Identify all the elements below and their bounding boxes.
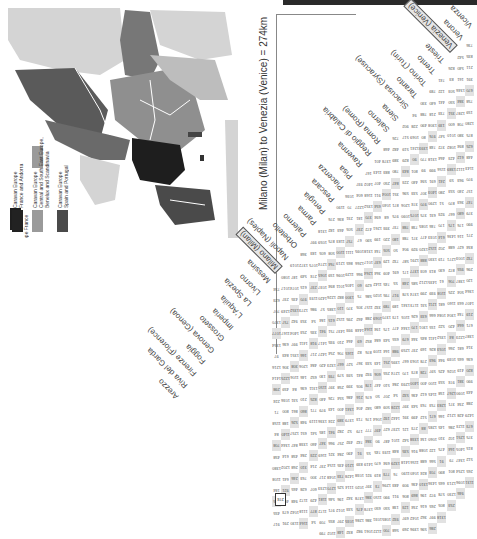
distance-cell: 770: [419, 154, 428, 165]
distance-cell: 860: [299, 406, 308, 417]
distance-cell: 332: [373, 302, 382, 313]
distance-cell: 1310: [419, 479, 428, 490]
distance-cell: 295: [345, 314, 354, 325]
distance-cell: 139: [437, 120, 446, 131]
distance-cell: 1428: [345, 471, 354, 482]
distance-cell: 605: [318, 248, 327, 259]
distance-cell: 1033: [428, 232, 437, 243]
distance-cell: 192: [382, 413, 391, 424]
distance-cell: 183: [309, 248, 318, 259]
distance-cell: 1230: [447, 489, 456, 500]
distance-cell: 1064: [373, 414, 382, 425]
distance-cell: 745: [373, 447, 382, 458]
distance-cell: 706: [447, 276, 456, 287]
distance-cell: 542: [456, 52, 465, 63]
distance-cell: 182: [327, 225, 336, 236]
distance-cell: 728: [419, 367, 428, 378]
distance-cell: 79: [447, 455, 456, 466]
distance-cell: 911: [391, 491, 400, 502]
distance-cell: 1212: [447, 410, 456, 421]
distance-cell: 719: [437, 254, 446, 265]
distance-cell: 381: [456, 376, 465, 387]
distance-cell: 706: [336, 348, 345, 359]
distance-cell: 344: [410, 334, 419, 345]
distance-cell: 207: [382, 391, 391, 402]
distance-cell: 1164: [299, 518, 308, 529]
distance-cell: 894: [327, 281, 336, 292]
distance-cell: 763: [299, 473, 308, 484]
distance-cell: 164: [447, 444, 456, 455]
distance-cell: 82: [355, 347, 364, 358]
distance-cell: 1404: [290, 328, 299, 339]
distance-cell: 652: [309, 372, 318, 383]
distance-cell: 164: [382, 346, 391, 357]
distance-cell: 188: [281, 418, 290, 429]
distance-cell: 225: [447, 287, 456, 298]
distance-cell: 1387: [456, 276, 465, 287]
distance-cell: 484: [309, 360, 318, 371]
distance-cell: 148: [336, 527, 345, 538]
distance-cell: 167: [364, 168, 373, 179]
distance-cell: 363: [456, 197, 465, 208]
distance-cell: 614: [281, 451, 290, 462]
distance-cell: 217: [309, 349, 318, 360]
distance-cell: 1130: [290, 518, 299, 529]
distance-cell: 641: [281, 474, 290, 485]
distance-cell: 547: [437, 131, 446, 142]
distance-cell: 1264: [364, 268, 373, 279]
distance-cell: 974: [447, 377, 456, 388]
distance-cell: 654: [373, 201, 382, 212]
distance-cell: 1274: [318, 259, 327, 270]
distance-cell: 1396: [410, 524, 419, 535]
chart-title: Milano (Milan) to Venezia (Venice) = 274…: [258, 20, 272, 210]
distance-cell: 651: [299, 428, 308, 439]
distance-cell: 121: [401, 424, 410, 435]
distance-cell: 1100: [336, 247, 345, 258]
distance-cell: 847: [391, 178, 400, 189]
distance-cell: 1011: [336, 281, 345, 292]
distance-cell: 386: [364, 492, 373, 503]
distance-cell: 593: [345, 370, 354, 381]
distance-cell: 1019: [290, 260, 299, 271]
distance-cell: 1075: [309, 260, 318, 271]
distance-cell: 615: [299, 282, 308, 293]
distance-cell: 441: [437, 97, 446, 108]
distance-cell: 475: [355, 504, 364, 515]
distance-cell: 1318: [428, 154, 437, 165]
distance-cell: 519: [401, 144, 410, 155]
distance-cell: 612: [419, 389, 428, 400]
distance-cell: 1400: [410, 378, 419, 389]
distance-cell: 732: [465, 253, 474, 264]
distance-cell: 170: [401, 368, 410, 379]
distance-cell: 284: [299, 450, 308, 461]
distance-cell: 1304: [447, 310, 456, 321]
distance-cell: 241: [437, 176, 446, 187]
distance-cell: 988: [391, 346, 400, 357]
distance-cell: 1190: [336, 202, 345, 213]
distance-cell: 932: [391, 514, 400, 525]
distance-cell: 1075: [410, 210, 419, 221]
distance-cell: 1378: [382, 156, 391, 167]
distance-cell: 61: [437, 276, 446, 287]
distance-cell: 824: [419, 468, 428, 479]
distance-cell: 1039: [447, 354, 456, 365]
distance-cell: 793: [327, 371, 336, 382]
distance-cell: 688: [419, 456, 428, 467]
distance-cell: 447: [373, 380, 382, 391]
distance-cell: 918: [309, 338, 318, 349]
distance-cell: 1020: [373, 290, 382, 301]
distance-cell: 187: [290, 272, 299, 283]
distance-cell: 1059: [318, 237, 327, 248]
distance-cell: 713: [355, 414, 364, 425]
distance-cell: 517: [401, 132, 410, 143]
distance-cell: 1069: [373, 313, 382, 324]
distance-cell: 1150: [373, 492, 382, 503]
distance-cell: 286: [447, 422, 456, 433]
distance-cell: 297: [336, 516, 345, 527]
distance-cell: 1437: [336, 326, 345, 337]
distance-cell: 375: [419, 210, 428, 221]
distance-cell: 1261: [373, 223, 382, 234]
distance-cell: 134: [419, 434, 428, 445]
distance-cell: 409: [382, 268, 391, 279]
distance-cell: 83: [447, 74, 456, 85]
